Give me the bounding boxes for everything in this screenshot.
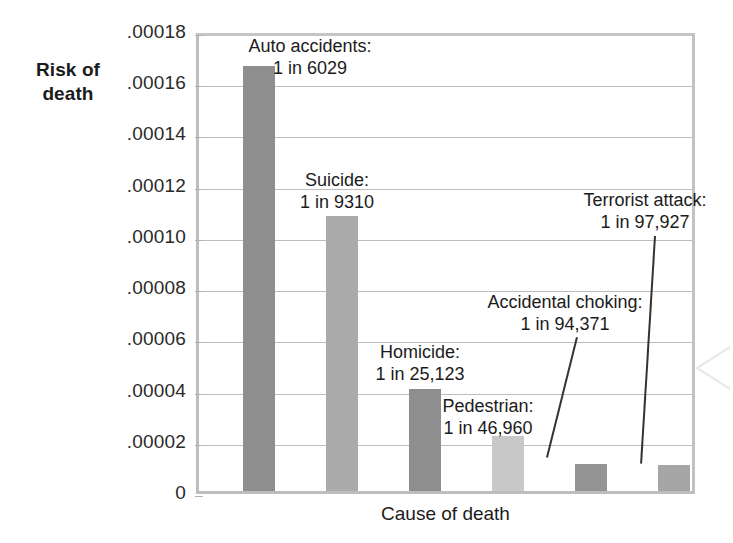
y-axis-tick bbox=[195, 86, 203, 87]
annotation-homicide-value: 1 in 25,123 bbox=[330, 364, 510, 386]
bar-accidental-choking bbox=[575, 464, 607, 491]
annotation-pedestrian-label: Pedestrian: bbox=[398, 396, 578, 418]
annotation-auto-accidents-label: Auto accidents: bbox=[205, 36, 415, 58]
annotation-accidental-choking-label: Accidental choking: bbox=[455, 292, 675, 314]
y-axis-tick bbox=[195, 137, 203, 138]
y-axis-tick bbox=[195, 496, 203, 497]
annotation-accidental-choking: Accidental choking: 1 in 94,371 bbox=[455, 292, 675, 336]
annotation-terrorist-attack-label: Terrorist attack: bbox=[545, 190, 733, 212]
y-axis-tick-label: .00018 bbox=[90, 21, 186, 43]
y-axis-tick-label: .00014 bbox=[90, 123, 186, 145]
annotation-terrorist-attack: Terrorist attack: 1 in 97,927 bbox=[545, 190, 733, 234]
y-axis-tick bbox=[195, 445, 203, 446]
x-axis-title: Cause of death bbox=[196, 503, 695, 525]
y-axis-tick bbox=[195, 291, 203, 292]
y-axis-tick bbox=[195, 35, 203, 36]
y-axis-tick bbox=[195, 189, 203, 190]
y-axis-tick-label: .00010 bbox=[90, 226, 186, 248]
y-axis-tick-label: 0 bbox=[90, 482, 186, 504]
annotation-accidental-choking-value: 1 in 94,371 bbox=[455, 314, 675, 336]
annotation-auto-accidents: Auto accidents: 1 in 6029 bbox=[205, 36, 415, 80]
y-axis-tick-label: .00006 bbox=[90, 328, 186, 350]
bar-pedestrian bbox=[492, 436, 524, 491]
y-axis-title-line2: death bbox=[42, 83, 93, 104]
annotation-suicide-label: Suicide: bbox=[257, 170, 417, 192]
y-axis-tick-label: .00016 bbox=[90, 72, 186, 94]
y-axis-tick bbox=[195, 342, 203, 343]
annotation-homicide-label: Homicide: bbox=[330, 342, 510, 364]
bar-auto-accidents bbox=[243, 66, 275, 491]
bar-chart: Risk of death .00018.00016.00014.00012.0… bbox=[0, 0, 733, 543]
annotation-homicide: Homicide: 1 in 25,123 bbox=[330, 342, 510, 386]
page-edge-arrow-artifact bbox=[691, 345, 731, 391]
bar-terrorist-attack bbox=[658, 465, 690, 491]
y-axis-tick-label: .00002 bbox=[90, 431, 186, 453]
y-axis-tick-label: .00012 bbox=[90, 175, 186, 197]
annotation-terrorist-attack-value: 1 in 97,927 bbox=[545, 212, 733, 234]
y-axis-tick-label: .00008 bbox=[90, 277, 186, 299]
y-axis-tick-label: .00004 bbox=[90, 380, 186, 402]
y-axis-tick bbox=[195, 394, 203, 395]
annotation-suicide: Suicide: 1 in 9310 bbox=[257, 170, 417, 214]
y-axis-tick bbox=[195, 240, 203, 241]
annotation-auto-accidents-value: 1 in 6029 bbox=[205, 58, 415, 80]
annotation-suicide-value: 1 in 9310 bbox=[257, 192, 417, 214]
